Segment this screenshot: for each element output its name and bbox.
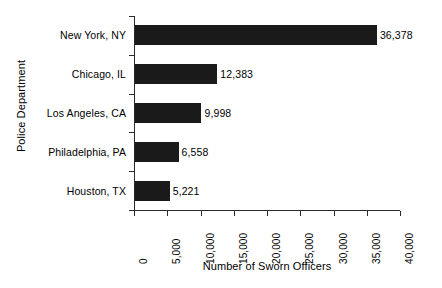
bar-value-label: 12,383 xyxy=(220,68,253,80)
bar-value-label: 9,998 xyxy=(204,107,231,119)
plot-area: 36,37812,3839,9986,5585,221 xyxy=(134,16,400,210)
category-label: Chicago, IL xyxy=(4,68,126,80)
x-axis-tick-label: 20,000 xyxy=(271,216,282,264)
x-axis-tick xyxy=(300,211,301,216)
y-axis-tick xyxy=(129,55,134,56)
x-axis-tick-label: 10,000 xyxy=(205,216,216,264)
bar xyxy=(135,25,377,45)
x-axis-tick-label: 35,000 xyxy=(371,216,382,264)
x-axis-tick xyxy=(167,211,168,216)
x-axis-tick xyxy=(134,211,135,216)
x-axis-tick xyxy=(400,211,401,216)
x-axis-tick xyxy=(234,211,235,216)
x-axis-tick-label: 5,000 xyxy=(171,216,182,264)
x-axis-tick-label: 0 xyxy=(138,216,149,264)
y-axis-tick xyxy=(129,132,134,133)
x-axis-tick xyxy=(367,211,368,216)
category-label: Los Angeles, CA xyxy=(4,107,126,119)
x-axis-tick-label: 30,000 xyxy=(338,216,349,264)
bar-value-label: 5,221 xyxy=(173,185,200,197)
y-axis-tick xyxy=(129,16,134,17)
bar-value-label: 36,378 xyxy=(380,29,413,41)
x-axis-title: Number of Sworn Officers xyxy=(134,259,400,273)
category-label: New York, NY xyxy=(4,29,126,41)
bar-chart: Police Department New York, NYChicago, I… xyxy=(0,0,442,288)
bar xyxy=(135,142,179,162)
x-axis-tick-label: 25,000 xyxy=(304,216,315,264)
x-axis-tick-label: 40,000 xyxy=(404,216,415,264)
bar xyxy=(135,181,170,201)
bar xyxy=(135,103,201,123)
x-axis-tick xyxy=(267,211,268,216)
category-label: Philadelphia, PA xyxy=(4,146,126,158)
x-axis-tick-label: 15,000 xyxy=(238,216,249,264)
bar xyxy=(135,64,217,84)
x-axis-tick xyxy=(201,211,202,216)
y-axis-tick xyxy=(129,171,134,172)
category-label: Houston, TX xyxy=(4,185,126,197)
x-axis-tick xyxy=(334,211,335,216)
bar-value-label: 6,558 xyxy=(182,146,209,158)
y-axis-tick xyxy=(129,94,134,95)
